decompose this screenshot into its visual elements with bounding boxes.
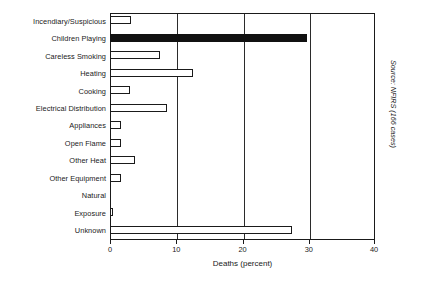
y-tick-label: Careless Smoking	[45, 53, 106, 61]
y-tick-label: Electrical Distribution	[36, 105, 106, 113]
y-tick-label: Natural	[82, 192, 106, 200]
bar-heating	[110, 69, 193, 77]
bar-cooking	[110, 86, 130, 94]
x-tick-mark	[309, 240, 310, 244]
y-tick-label: Incendiary/Suspicious	[33, 18, 106, 26]
bar-exposure	[110, 208, 113, 216]
x-axis-ticks: 0 10 20 30 40	[110, 240, 375, 258]
y-tick-label: Other Heat	[69, 157, 106, 165]
bar-electrical-distribution	[110, 104, 167, 112]
y-tick-label: Other Equipment	[49, 175, 106, 183]
x-tick-label: 30	[305, 245, 313, 254]
y-tick-label: Children Playing	[51, 35, 106, 43]
bar-other-heat	[110, 156, 135, 164]
y-tick-label: Unknown	[75, 227, 106, 235]
y-tick-label: Exposure	[74, 210, 106, 218]
bars-container	[110, 13, 375, 240]
bar-unknown	[110, 226, 292, 234]
bar-children-playing	[110, 34, 307, 42]
bar-open-flame	[110, 139, 121, 147]
x-tick-mark	[374, 240, 375, 244]
x-axis-title: Deaths (percent)	[110, 259, 375, 268]
x-tick-mark	[176, 240, 177, 244]
x-tick-label: 20	[238, 245, 246, 254]
bar-appliances	[110, 121, 121, 129]
y-tick-label: Appliances	[69, 122, 106, 130]
y-tick-label: Open Flame	[65, 140, 106, 148]
source-note: Source: NFIRS (166 cases)	[389, 60, 398, 148]
x-tick-label: 10	[172, 245, 180, 254]
x-tick-mark	[110, 240, 111, 244]
y-tick-label: Heating	[80, 70, 106, 78]
x-tick-mark	[243, 240, 244, 244]
y-axis-labels: Incendiary/Suspicious Children Playing C…	[0, 13, 106, 240]
bar-other-equipment	[110, 174, 121, 182]
x-tick-label: 0	[108, 245, 112, 254]
bar-incendiary-suspicious	[110, 16, 131, 24]
y-tick-label: Cooking	[79, 88, 106, 96]
x-tick-label: 40	[370, 245, 378, 254]
bar-careless-smoking	[110, 51, 160, 59]
bar-chart: Incendiary/Suspicious Children Playing C…	[0, 0, 427, 282]
